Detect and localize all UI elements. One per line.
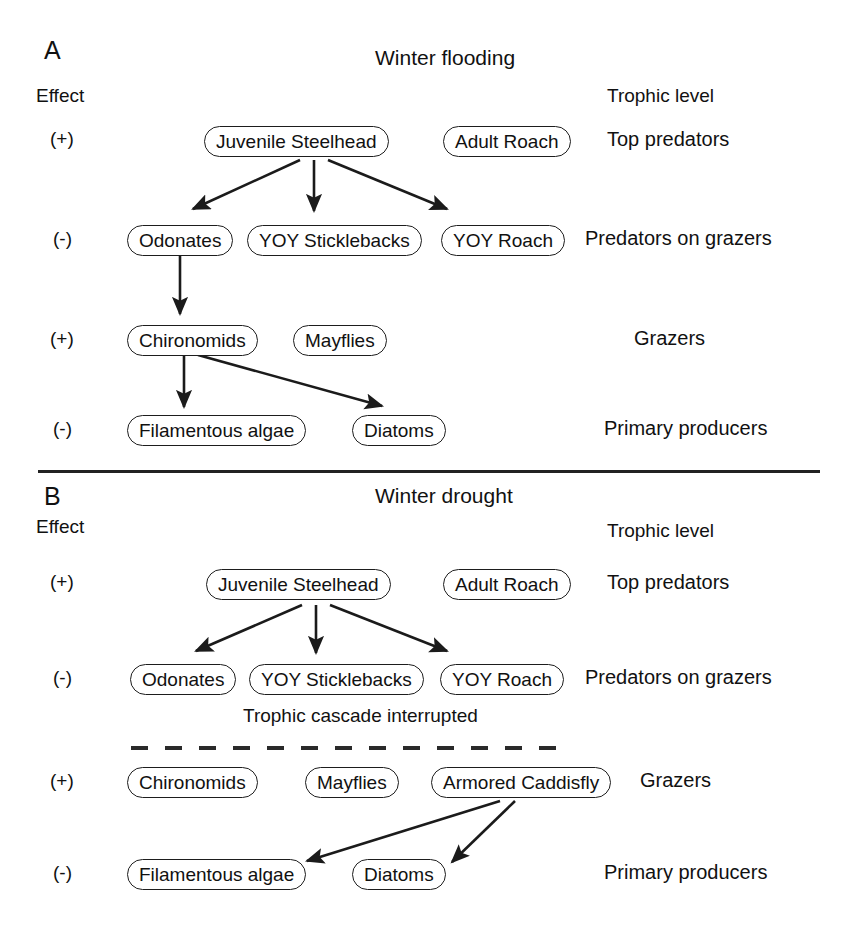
panel-a-title: Winter flooding (375, 46, 515, 70)
panel-b-effect-row1: (+) (50, 571, 74, 593)
node-odonates-b[interactable]: Odonates (130, 664, 236, 695)
panel-a-effect-row1: (+) (50, 128, 74, 150)
panel-a-trophic-row2: Predators on grazers (585, 227, 772, 250)
node-filamentous-algae-b[interactable]: Filamentous algae (127, 859, 306, 890)
node-yoy-roach-b[interactable]: YOY Roach (440, 664, 564, 695)
node-yoy-roach-a[interactable]: YOY Roach (441, 225, 565, 256)
panel-a-trophic-row3: Grazers (634, 327, 705, 350)
node-odonates-a[interactable]: Odonates (127, 225, 233, 256)
panel-b-trophic-row1: Top predators (607, 571, 729, 594)
panel-b-letter: B (44, 482, 61, 511)
panel-a-effect-header: Effect (36, 85, 84, 107)
panel-a-letter: A (44, 36, 61, 65)
node-juvenile-steelhead-b[interactable]: Juvenile Steelhead (206, 569, 391, 600)
panel-a-effect-row4: (-) (53, 418, 72, 440)
node-filamentous-algae-a[interactable]: Filamentous algae (127, 415, 306, 446)
panel-a-effect-row2: (-) (53, 228, 72, 250)
trophic-cascade-figure: A Winter flooding Effect Trophic level (… (0, 0, 844, 935)
node-diatoms-b[interactable]: Diatoms (352, 859, 446, 890)
node-yoy-sticklebacks-a[interactable]: YOY Sticklebacks (247, 225, 422, 256)
panel-b-trophic-row3: Grazers (640, 769, 711, 792)
panel-a-effect-row3: (+) (50, 328, 74, 350)
panel-b-effect-row2: (-) (53, 667, 72, 689)
panel-b-title: Winter drought (375, 484, 513, 508)
panel-a-trophic-row1: Top predators (607, 128, 729, 151)
panel-b-trophic-row2: Predators on grazers (585, 666, 772, 689)
panel-divider (38, 470, 820, 473)
node-diatoms-a[interactable]: Diatoms (352, 415, 446, 446)
node-yoy-sticklebacks-b[interactable]: YOY Sticklebacks (249, 664, 424, 695)
trophic-cascade-interrupted-label: Trophic cascade interrupted (243, 705, 478, 727)
node-mayflies-a[interactable]: Mayflies (293, 325, 387, 356)
node-adult-roach-a[interactable]: Adult Roach (443, 126, 571, 157)
panel-a-trophic-row4: Primary producers (604, 417, 767, 440)
node-mayflies-b[interactable]: Mayflies (305, 767, 399, 798)
panel-b-trophic-header: Trophic level (607, 520, 714, 542)
panel-b-effect-header: Effect (36, 516, 84, 538)
panel-a-trophic-header: Trophic level (607, 85, 714, 107)
node-chironomids-b[interactable]: Chironomids (127, 767, 258, 798)
panel-a: A Winter flooding Effect Trophic level (… (0, 0, 844, 463)
panel-b-effect-row3: (+) (50, 770, 74, 792)
panel-b-trophic-row4: Primary producers (604, 861, 767, 884)
panel-b: B Winter drought Effect Trophic level (+… (0, 478, 844, 935)
node-juvenile-steelhead-a[interactable]: Juvenile Steelhead (204, 126, 389, 157)
panel-b-effect-row4: (-) (53, 862, 72, 884)
node-adult-roach-b[interactable]: Adult Roach (443, 569, 571, 600)
node-armored-caddisfly-b[interactable]: Armored Caddisfly (431, 767, 611, 798)
node-chironomids-a[interactable]: Chironomids (127, 325, 258, 356)
